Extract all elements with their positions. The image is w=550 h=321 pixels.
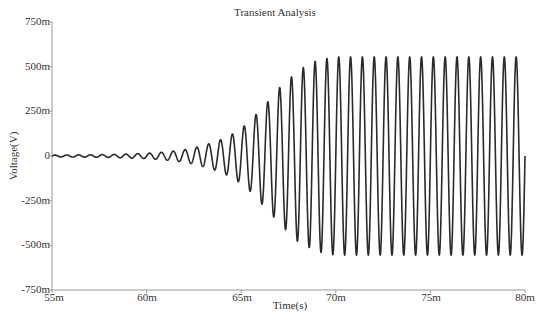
voltage-trace	[52, 57, 525, 255]
transient-analysis-chart: Transient Analysis Voltage(V) Time(s) 75…	[0, 0, 550, 321]
plot-area	[0, 0, 550, 321]
